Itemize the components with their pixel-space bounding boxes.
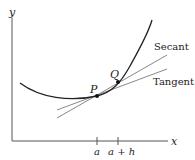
point-p-label: P: [89, 83, 98, 96]
tick-label-a: a: [94, 146, 100, 157]
x-axis-label: x: [171, 135, 178, 148]
point-q-label: Q: [110, 68, 119, 81]
curve: [20, 20, 152, 99]
secant-line: [57, 55, 167, 118]
tangent-label: Tangent: [153, 76, 194, 87]
secant-tangent-diagram: y x a a + h P Q Secant Tangent: [0, 0, 195, 160]
secant-label: Secant: [154, 41, 189, 52]
y-axis-label: y: [8, 6, 16, 19]
tick-label-a-plus-h: a + h: [108, 146, 135, 157]
